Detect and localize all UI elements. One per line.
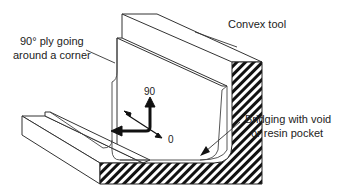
ply-label-line2: around a corner xyxy=(13,49,91,61)
tool-label: Convex tool xyxy=(228,18,286,30)
axis-0-label: 0 xyxy=(168,134,174,145)
axis-90-label: 90 xyxy=(144,86,156,97)
bridging-label-line1: Bridging with void xyxy=(245,113,331,125)
ply-corner-diagram: 90 0 90° ply going around a corner Conve… xyxy=(0,0,340,196)
bridging-arrowhead xyxy=(200,146,210,156)
bridging-label-line2: or resin pocket xyxy=(251,127,323,139)
ply-label-line1: 90° ply going xyxy=(20,35,84,47)
ply-orientation-axes xyxy=(111,97,162,138)
tool-cross-section xyxy=(100,62,262,184)
